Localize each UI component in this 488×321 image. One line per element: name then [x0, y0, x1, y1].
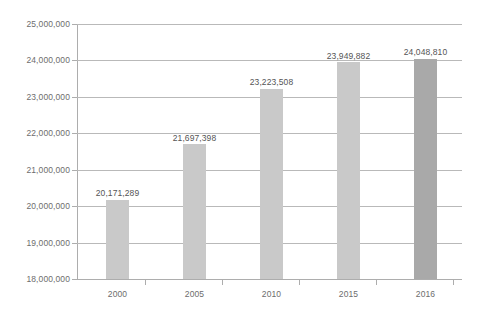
x-axis-label-2000: 2000 [108, 290, 127, 299]
y-axis-tick-label: 23,000,000 [6, 93, 70, 102]
y-axis-labels: 25,000,000 24,000,000 23,000,000 22,000,… [0, 0, 70, 321]
y-axis-tick-label: 21,000,000 [6, 165, 70, 174]
y-axis-tick-label: 25,000,000 [6, 20, 70, 29]
x-axis-line [77, 279, 462, 280]
gridline [77, 24, 462, 25]
x-axis-label-2005: 2005 [185, 290, 204, 299]
bar-value-label-2005: 21,697,398 [173, 134, 217, 143]
bar-value-label-2016: 24,048,810 [404, 48, 448, 57]
y-axis-tick-label: 24,000,000 [6, 56, 70, 65]
bar-value-label-2010: 23,223,508 [250, 78, 294, 87]
y-axis-tick-label: 22,000,000 [6, 129, 70, 138]
bar-value-label-2000: 20,171,289 [96, 189, 140, 198]
bar-2010[interactable] [260, 89, 283, 279]
plot-area [77, 24, 462, 279]
y-axis-tick-label: 20,000,000 [6, 202, 70, 211]
bar-2005[interactable] [183, 144, 206, 279]
y-axis-tick-label: 18,000,000 [6, 275, 70, 284]
bar-2016[interactable] [414, 59, 437, 279]
x-axis-tick [299, 280, 300, 285]
x-axis-label-2015: 2015 [339, 290, 358, 299]
x-axis-tick [145, 280, 146, 285]
bar-2000[interactable] [106, 200, 129, 279]
gridline [77, 60, 462, 61]
bar-2015[interactable] [337, 62, 360, 279]
y-axis-tick-label: 19,000,000 [6, 238, 70, 247]
x-axis-tick [376, 280, 377, 285]
x-axis-label-2016: 2016 [416, 290, 435, 299]
bar-chart: 25,000,000 24,000,000 23,000,000 22,000,… [0, 0, 488, 321]
x-axis-tick [222, 280, 223, 285]
bar-value-label-2015: 23,949,882 [327, 52, 371, 61]
x-axis-label-2010: 2010 [262, 290, 281, 299]
x-axis-tick [453, 280, 454, 285]
